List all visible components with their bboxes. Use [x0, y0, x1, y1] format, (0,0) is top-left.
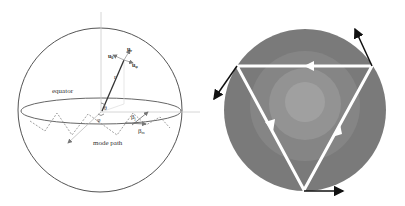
u-r-label: ur: [127, 46, 132, 53]
phi-label: φ: [97, 117, 101, 123]
unit-vector-theta: [113, 55, 124, 60]
disc-figure: [200, 0, 405, 206]
u-theta-label: uθ: [108, 53, 113, 60]
sphere-outline: [18, 28, 182, 192]
spherical-coordinates-diagram: equator mode path r θ φ uθ ur uφ βj βm: [0, 0, 205, 206]
beta-j-label: βj: [131, 113, 136, 121]
u-phi-label: uφ: [132, 62, 138, 69]
beta-m-label: βm: [138, 127, 146, 135]
equator-label: equator: [52, 87, 74, 95]
disc-center: [285, 82, 325, 122]
r-label: r: [114, 74, 116, 80]
mode-path-label: mode path: [93, 139, 123, 147]
beta-m-arrow: [125, 123, 146, 124]
theta-label: θ: [104, 105, 107, 111]
triangle-path-diagram: [200, 0, 405, 206]
radius-vector: [102, 60, 124, 111]
sphere-figure: equator mode path r θ φ uθ ur uφ βj βm: [0, 0, 205, 206]
